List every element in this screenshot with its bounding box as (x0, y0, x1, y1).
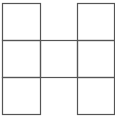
grid-cell (3, 78, 41, 115)
grid-cell (3, 4, 41, 41)
h-grid-diagram (0, 0, 115, 121)
grid-cell (78, 41, 115, 78)
grid-cell (78, 78, 115, 115)
grid-cell (78, 4, 115, 41)
grid-cell (3, 41, 41, 78)
grid-cell (41, 41, 78, 78)
